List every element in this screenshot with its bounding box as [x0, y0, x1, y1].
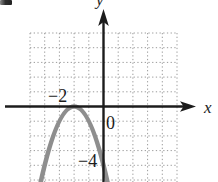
- x-axis-label: x: [203, 98, 212, 117]
- y-axis-label: y: [94, 0, 104, 9]
- figure-canvas: y x 0 −2 −4: [0, 0, 218, 182]
- parabola-graph: y x 0 −2 −4: [0, 0, 218, 182]
- cropped-ink-mark: [0, 0, 12, 5]
- y-tick-label-neg4: −4: [78, 151, 97, 171]
- origin-label: 0: [106, 113, 115, 133]
- x-tick-label-neg2: −2: [48, 86, 67, 106]
